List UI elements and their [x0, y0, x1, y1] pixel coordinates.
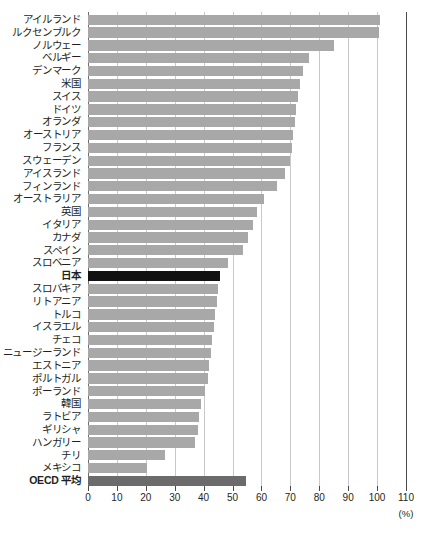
bar-series — [88, 12, 406, 486]
x-tick-50 — [233, 486, 234, 491]
bar-スイス — [88, 91, 298, 101]
x-axis-unit-label: (%) — [399, 508, 414, 519]
bar-ニュージーランド — [88, 348, 211, 358]
bar-ベルギー — [88, 53, 309, 63]
x-tick-label-100: 100 — [369, 492, 386, 503]
bar-韓国 — [88, 399, 201, 409]
bar-日本 — [88, 271, 220, 281]
bar-オランダ — [88, 117, 295, 127]
bar-ノルウェー — [88, 40, 334, 50]
x-tick-20 — [146, 486, 147, 491]
x-tick-80 — [319, 486, 320, 491]
x-tick-label-40: 40 — [198, 492, 209, 503]
bar-トルコ — [88, 309, 215, 319]
bar-イスラエル — [88, 322, 214, 332]
x-tick-label-90: 90 — [343, 492, 354, 503]
x-tick-label-0: 0 — [85, 492, 91, 503]
bar-ハンガリー — [88, 437, 195, 447]
x-tick-90 — [348, 486, 349, 491]
x-tick-label-30: 30 — [169, 492, 180, 503]
bar-アイルランド — [88, 15, 380, 25]
bar-オーストラリア — [88, 194, 264, 204]
bar-フィンランド — [88, 181, 277, 191]
bar-メキシコ — [88, 463, 147, 473]
bar-スウェーデン — [88, 156, 290, 166]
bar-デンマーク — [88, 66, 303, 76]
bar-ラトビア — [88, 412, 199, 422]
bar-アイスランド — [88, 168, 285, 178]
x-tick-label-80: 80 — [314, 492, 325, 503]
x-tick-label-10: 10 — [111, 492, 122, 503]
bar-カナダ — [88, 232, 248, 242]
bar-ドイツ — [88, 104, 296, 114]
bar-エストニア — [88, 360, 209, 370]
bar-イタリア — [88, 220, 253, 230]
bar-スペイン — [88, 245, 243, 255]
category-axis-labels: アイルランドルクセンブルクノルウェーベルギーデンマーク米国スイスドイツオランダオ… — [0, 12, 85, 486]
bar-ルクセンブルク — [88, 27, 379, 37]
x-tick-60 — [261, 486, 262, 491]
x-tick-110 — [406, 486, 407, 491]
bar-チェコ — [88, 335, 212, 345]
x-tick-label-60: 60 — [256, 492, 267, 503]
x-tick-10 — [117, 486, 118, 491]
bar-フランス — [88, 143, 292, 153]
gridline-110 — [406, 12, 407, 486]
bar-オーストリア — [88, 130, 293, 140]
bar-chart: アイルランドルクセンブルクノルウェーベルギーデンマーク米国スイスドイツオランダオ… — [0, 0, 421, 534]
bar-ポルトガル — [88, 373, 208, 383]
bar-OECD 平均 — [88, 476, 246, 486]
bar-リトアニア — [88, 296, 217, 306]
x-tick-30 — [175, 486, 176, 491]
bar-スロベニア — [88, 258, 228, 268]
bar-チリ — [88, 450, 165, 460]
bar-英国 — [88, 207, 257, 217]
x-axis: 0102030405060708090100110(%) — [88, 486, 406, 534]
x-tick-label-20: 20 — [140, 492, 151, 503]
x-tick-0 — [88, 486, 89, 491]
category-label: OECD 平均 — [29, 473, 81, 488]
x-tick-70 — [290, 486, 291, 491]
x-tick-label-50: 50 — [227, 492, 238, 503]
bar-米国 — [88, 79, 300, 89]
bar-ポーランド — [88, 386, 205, 396]
plot-area — [88, 12, 406, 486]
x-tick-label-110: 110 — [398, 492, 414, 503]
x-tick-100 — [377, 486, 378, 491]
x-tick-label-70: 70 — [285, 492, 296, 503]
bar-ギリシャ — [88, 425, 198, 435]
x-tick-40 — [204, 486, 205, 491]
bar-スロバキア — [88, 284, 218, 294]
